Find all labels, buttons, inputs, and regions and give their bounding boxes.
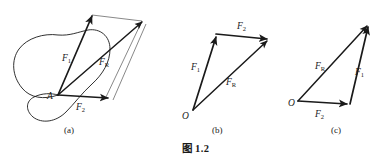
panel-label-c: (c): [331, 125, 341, 135]
figure-container: F1 F2 FR A (a) F1 F2: [0, 0, 391, 163]
label-f2-panel-a: F2: [75, 102, 85, 113]
parallelogram-construction-line-2: [106, 21, 142, 97]
panel-b: F1 F2 FR O (b): [182, 21, 267, 135]
label-fr-panel-c: FR: [314, 61, 326, 72]
panel-c: FR F2 F1 O (c): [288, 26, 368, 135]
label-point-o-panel-c: O: [288, 98, 295, 108]
vector-fr-panel-c: [298, 26, 367, 101]
parallelogram-construction-line-1: [92, 15, 142, 21]
label-fr-panel-a: FR: [98, 57, 110, 68]
panel-label-a: (a): [64, 125, 74, 135]
label-point-o-panel-b: O: [182, 111, 189, 121]
label-f1-panel-c: F1: [354, 67, 364, 78]
panel-label-b: (b): [212, 125, 223, 135]
vector-f2-panel-b: [216, 34, 267, 39]
vector-f2-panel-a: [58, 95, 108, 98]
label-f2-panel-b: F2: [236, 21, 246, 32]
panel-a: F1 F2 FR A (a): [14, 15, 146, 135]
label-fr-panel-b: FR: [225, 77, 237, 88]
label-f1-panel-b: F1: [190, 62, 200, 73]
parallelogram-construction-line-3: [113, 24, 146, 100]
rigid-body-outline: [14, 30, 110, 121]
vector-f1-panel-c: [350, 27, 368, 104]
label-point-a: A: [46, 91, 53, 101]
label-f1-panel-a: F1: [61, 53, 71, 64]
figure-drawing: F1 F2 FR A (a) F1 F2: [0, 0, 391, 163]
vector-f2-panel-c: [298, 101, 347, 104]
label-f2-panel-c: F2: [314, 109, 324, 120]
figure-caption: 图 1.2: [0, 140, 391, 155]
